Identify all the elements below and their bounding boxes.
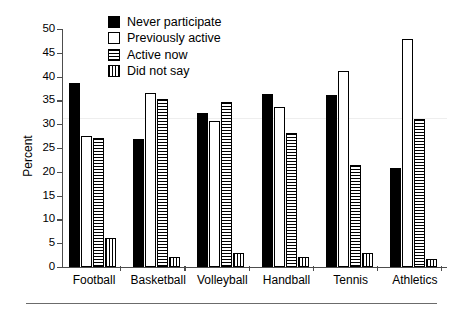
legend-item-label: Never participate bbox=[127, 16, 222, 29]
bar bbox=[221, 102, 232, 267]
bar bbox=[157, 99, 168, 267]
bar bbox=[233, 253, 244, 267]
bar-chart-figure: Never participatePreviously activeActive… bbox=[0, 0, 463, 312]
y-axis-line bbox=[62, 29, 63, 267]
bar-group bbox=[326, 29, 376, 267]
bar bbox=[362, 253, 373, 267]
x-group-separator-tick bbox=[120, 266, 121, 271]
bar-group bbox=[69, 29, 119, 267]
x-group-separator-tick bbox=[184, 266, 185, 271]
bar bbox=[390, 168, 401, 267]
y-tick-mark bbox=[57, 124, 62, 125]
y-tick-mark bbox=[57, 219, 62, 220]
bar-group bbox=[133, 29, 183, 267]
x-group-separator-tick bbox=[377, 266, 378, 271]
y-tick-label: 15 bbox=[43, 190, 55, 202]
bar bbox=[133, 139, 144, 267]
y-tick-mark bbox=[57, 243, 62, 244]
y-tick-mark bbox=[57, 77, 62, 78]
bar bbox=[209, 121, 220, 267]
bar-group bbox=[390, 29, 440, 267]
bar-group bbox=[197, 29, 247, 267]
footer-divider bbox=[26, 303, 437, 304]
y-tick-label: 10 bbox=[43, 214, 55, 226]
y-tick-mark bbox=[57, 172, 62, 173]
bar bbox=[105, 238, 116, 267]
y-axis-title: Percent bbox=[21, 135, 35, 176]
x-axis-category-label: Athletics bbox=[392, 273, 437, 287]
x-group-separator-tick bbox=[441, 266, 442, 271]
bar-group bbox=[262, 29, 312, 267]
legend-item: Never participate bbox=[108, 14, 222, 30]
y-tick-label: 5 bbox=[49, 237, 55, 249]
bar bbox=[426, 259, 437, 267]
y-tick-label: 40 bbox=[43, 71, 55, 83]
y-tick-mark bbox=[57, 196, 62, 197]
bar bbox=[350, 165, 361, 267]
bar-group-bars bbox=[69, 29, 119, 267]
y-tick-label: 50 bbox=[43, 23, 55, 35]
bar bbox=[262, 94, 273, 267]
y-tick-mark bbox=[57, 29, 62, 30]
bar bbox=[145, 93, 156, 267]
plot-area: 05101520253035404550 FootballBasketballV… bbox=[62, 29, 447, 267]
bar-group-bars bbox=[262, 29, 312, 267]
bar bbox=[274, 107, 285, 267]
bar bbox=[93, 138, 104, 267]
y-tick-mark bbox=[57, 148, 62, 149]
bar bbox=[81, 136, 92, 267]
y-tick-label: 25 bbox=[43, 142, 55, 154]
bar bbox=[169, 257, 180, 267]
bar-group-bars bbox=[197, 29, 247, 267]
bar bbox=[338, 71, 349, 267]
y-tick-label: 45 bbox=[43, 47, 55, 59]
bar bbox=[414, 119, 425, 268]
bar-group-bars bbox=[390, 29, 440, 267]
bar bbox=[402, 39, 413, 267]
bar bbox=[286, 133, 297, 267]
bar-group-bars bbox=[133, 29, 183, 267]
x-axis-category-label: Volleyball bbox=[197, 273, 248, 287]
y-tick-label: 20 bbox=[43, 166, 55, 178]
y-tick-mark bbox=[57, 100, 62, 101]
x-axis-category-label: Basketball bbox=[130, 273, 185, 287]
bar bbox=[197, 113, 208, 267]
y-tick-label: 30 bbox=[43, 118, 55, 130]
legend-swatch-solid-black-icon bbox=[108, 16, 120, 28]
bar bbox=[326, 95, 337, 267]
bar bbox=[69, 83, 80, 267]
x-group-separator-tick bbox=[249, 266, 250, 271]
y-tick-label: 0 bbox=[49, 261, 55, 273]
x-axis-category-label: Handball bbox=[263, 273, 310, 287]
bar bbox=[298, 257, 309, 267]
bar-group-bars bbox=[326, 29, 376, 267]
x-axis-category-label: Football bbox=[73, 273, 116, 287]
y-tick-mark bbox=[57, 53, 62, 54]
x-group-separator-tick bbox=[313, 266, 314, 271]
y-tick-label: 35 bbox=[43, 95, 55, 107]
x-axis-category-label: Tennis bbox=[333, 273, 368, 287]
y-tick-mark bbox=[57, 267, 62, 268]
